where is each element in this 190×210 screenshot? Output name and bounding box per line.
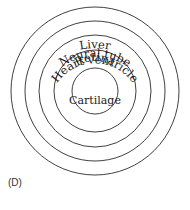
ring-cartilage xyxy=(72,68,118,114)
panel-label: (D) xyxy=(8,177,22,188)
label-cartilage: Cartilage xyxy=(69,94,121,107)
concentric-diagram: Liver Neural tube Heart ventricle Retina… xyxy=(0,0,190,210)
ring-liver xyxy=(11,7,179,175)
